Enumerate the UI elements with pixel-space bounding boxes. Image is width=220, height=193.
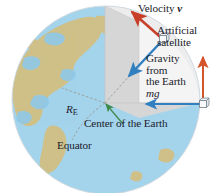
center-of-earth-label: Center of the Earth <box>84 118 168 130</box>
satellite-label-line1: Artificial <box>157 25 197 37</box>
satellite-orbit-figure: Velocity v Artificial satellite Gravity … <box>0 0 220 193</box>
earth-radius-symbol: R <box>66 103 73 115</box>
earth-radius-subscript: E <box>73 108 78 117</box>
satellite-label-line2: satellite <box>157 37 197 49</box>
velocity-label: Velocity v <box>138 3 182 15</box>
earth-radius-label: RE <box>66 104 78 117</box>
satellite-label: Artificial satellite <box>157 25 197 48</box>
gravity-label: Gravity from the Earth mg <box>146 53 186 100</box>
weight-box-marker <box>200 98 210 108</box>
velocity-label-text: Velocity <box>138 2 174 14</box>
gravity-label-line1: Gravity <box>146 53 186 65</box>
gravity-symbol: mg <box>146 88 186 100</box>
equator-label: Equator <box>57 140 92 152</box>
velocity-symbol: v <box>177 2 182 14</box>
